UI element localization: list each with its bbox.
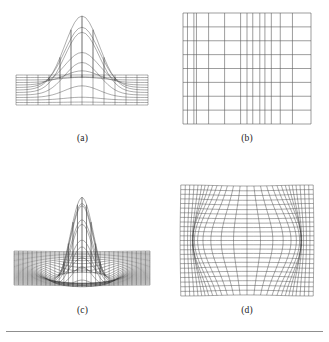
panel-a-wireframe-plot — [0, 4, 165, 132]
panel-a-caption: (a) — [0, 132, 165, 144]
panel-d-grid-plot — [165, 176, 329, 304]
panel-a-surface — [0, 4, 165, 132]
panel-c-surface — [0, 176, 165, 304]
panel-c-wireframe-plot — [0, 176, 165, 304]
panel-b-reference-grid — [165, 4, 329, 132]
panel-b-caption: (b) — [165, 132, 329, 144]
panel-b-grid-plot — [165, 4, 329, 132]
panel-c-caption: (c) — [0, 304, 165, 316]
panel-d-warped-grid — [165, 176, 329, 304]
figure-root: (a) (b) (c) (d) — [0, 0, 329, 342]
figure-bottom-rule — [6, 331, 323, 332]
panel-d-caption: (d) — [165, 304, 329, 316]
